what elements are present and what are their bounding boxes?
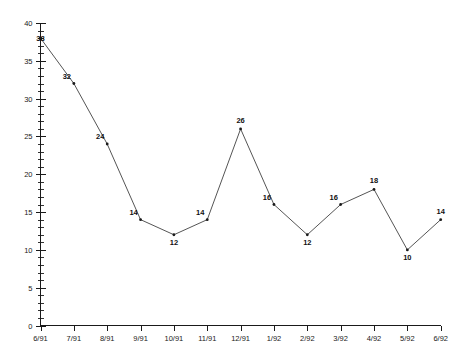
x-tick-label: 1/92: [267, 334, 282, 343]
data-point-label: 14: [129, 208, 138, 217]
x-tick-label: 4/92: [367, 334, 382, 343]
data-point-label: 26: [236, 116, 244, 125]
y-tick-label: 0: [28, 322, 32, 331]
y-tick-label: 15: [24, 208, 32, 217]
data-point-label: 14: [196, 208, 205, 217]
y-tick-label: 30: [24, 95, 32, 104]
data-point-label: 24: [96, 132, 105, 141]
x-tick-label: 5/92: [400, 334, 415, 343]
data-point: [373, 188, 376, 191]
x-tick-label: 6/92: [433, 334, 448, 343]
data-point-label: 18: [370, 176, 378, 185]
x-tick-label: 6/91: [33, 334, 48, 343]
x-tick-label: 2/92: [300, 334, 315, 343]
x-tick-label: 3/92: [333, 334, 348, 343]
data-point-label: 38: [36, 34, 44, 43]
data-point-label: 10: [403, 253, 411, 262]
y-tick-label: 10: [24, 246, 32, 255]
x-tick-label: 11/91: [198, 334, 216, 343]
data-point: [72, 82, 75, 85]
line-chart: 0510152025303540 6/917/918/919/9110/9111…: [0, 0, 449, 352]
y-tick-label: 35: [24, 57, 32, 66]
x-tick-label: 9/91: [133, 334, 148, 343]
x-tick-label: 7/91: [67, 334, 82, 343]
x-tick-label: 10/91: [165, 334, 184, 343]
y-tick-label: 40: [24, 19, 32, 28]
data-point-label: 12: [170, 238, 178, 247]
data-point-label: 14: [437, 207, 446, 216]
data-point-label: 12: [303, 238, 311, 247]
y-tick-label: 25: [24, 132, 32, 141]
data-point: [306, 233, 309, 236]
x-axis-tick-labels: 6/917/918/919/9110/9111/9112/911/922/923…: [33, 334, 448, 343]
data-point: [339, 203, 342, 206]
data-point: [173, 233, 176, 236]
data-point-label: 32: [63, 72, 71, 81]
data-point-label: 16: [329, 193, 337, 202]
data-point: [239, 127, 242, 130]
data-point: [139, 218, 142, 221]
data-point: [273, 203, 276, 206]
data-point: [106, 143, 109, 146]
data-point: [206, 218, 209, 221]
x-tick-label: 12/91: [231, 334, 250, 343]
data-point: [439, 218, 442, 221]
x-tick-label: 8/91: [100, 334, 115, 343]
data-series-line: [41, 38, 441, 250]
data-point: [406, 248, 409, 251]
data-point-labels: 38322414121426161216181014: [36, 34, 445, 262]
chart-canvas: 0510152025303540 6/917/918/919/9110/9111…: [0, 0, 449, 352]
x-axis-ticks: [42, 326, 442, 331]
y-axis-tick-labels: 0510152025303540: [24, 19, 32, 331]
y-tick-label: 20: [24, 170, 32, 179]
data-point-markers: [39, 37, 442, 252]
y-tick-label: 5: [28, 284, 32, 293]
data-point-label: 16: [263, 193, 271, 202]
